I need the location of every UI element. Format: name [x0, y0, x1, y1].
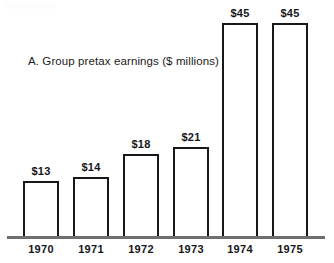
x-axis-label: 1975 — [258, 243, 322, 255]
bar — [222, 23, 258, 238]
x-axis-line — [7, 236, 325, 239]
bar-chart: A. Group pretax earnings ($ millions) $1… — [0, 0, 334, 263]
bar — [123, 154, 159, 238]
x-axis-labels: 197019711972197319741975 — [0, 243, 334, 261]
bar-value-label: $21 — [159, 131, 223, 143]
bar-value-label: $14 — [59, 161, 123, 173]
bar — [73, 177, 109, 238]
bar — [173, 147, 209, 238]
bar-value-label: $45 — [258, 7, 322, 19]
bar — [23, 181, 59, 238]
bar — [272, 23, 308, 238]
plot-area: $13$14$18$21$45$45 — [0, 0, 334, 238]
